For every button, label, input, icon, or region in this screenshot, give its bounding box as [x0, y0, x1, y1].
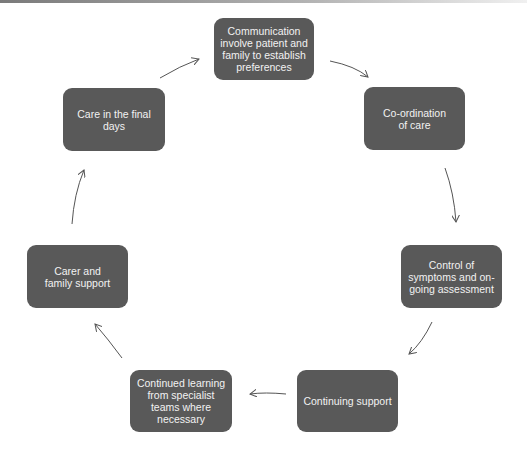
- node-control: Control of symptoms and on-going assessm…: [401, 245, 502, 308]
- node-label: Continued learning from specialist teams…: [134, 377, 228, 425]
- arrow-coordination-to-control: [445, 168, 456, 222]
- arrow-communication-to-coordination: [330, 61, 368, 77]
- node-label: Care in the final days: [67, 108, 161, 132]
- node-continued-learning: Continued learning from specialist teams…: [130, 370, 232, 432]
- node-label: Control of symptoms and on-going assessm…: [405, 259, 498, 295]
- arrow-learning-to-carer: [95, 324, 122, 358]
- node-label: Co-ordination of care: [368, 107, 461, 131]
- arrow-final-to-communication: [160, 59, 199, 78]
- node-label: Communication involve patient and family…: [218, 25, 310, 73]
- node-care-final-days: Care in the final days: [63, 88, 165, 151]
- node-label: Carer and family support: [31, 265, 124, 289]
- node-continuing-support: Continuing support: [297, 370, 398, 432]
- node-carer-family-support: Carer and family support: [27, 245, 128, 308]
- node-coordination: Co-ordination of care: [364, 87, 465, 150]
- arrow-continuing-to-learning: [250, 393, 286, 394]
- node-communication: Communication involve patient and family…: [214, 18, 314, 80]
- arrow-control-to-continuing: [409, 322, 432, 354]
- node-label: Continuing support: [303, 395, 391, 407]
- arrow-carer-to-final: [72, 170, 84, 224]
